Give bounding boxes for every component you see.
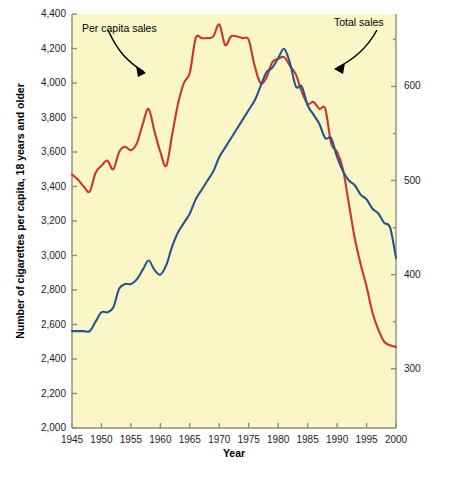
left-tick-label-4400: 4,400 bbox=[10, 8, 66, 19]
series-line-per-capita-sales bbox=[72, 24, 396, 347]
right-axis-ticks bbox=[391, 39, 396, 368]
right-tick-label-300: 300 bbox=[404, 363, 421, 374]
left-tick-label-2000: 2,000 bbox=[10, 422, 66, 433]
annotation-per-capita-sales: Per capita sales bbox=[82, 22, 157, 34]
left-axis-ticks bbox=[72, 14, 77, 428]
left-axis-title: Number of cigarettes per capita, 18 year… bbox=[14, 61, 26, 361]
bottom-tick-label-1980: 1980 bbox=[262, 434, 294, 445]
left-tick-label-4200: 4,200 bbox=[10, 43, 66, 54]
bottom-tick-label-1995: 1995 bbox=[351, 434, 383, 445]
left-tick-label-2200: 2,200 bbox=[10, 388, 66, 399]
x-axis-title: Year bbox=[72, 447, 396, 459]
bottom-tick-label-1985: 1985 bbox=[292, 434, 324, 445]
arrowhead-total-sales bbox=[334, 63, 345, 74]
annotation-arrows bbox=[108, 30, 377, 72]
arrow-total-sales-curve bbox=[337, 30, 377, 68]
bottom-tick-label-1955: 1955 bbox=[115, 434, 147, 445]
right-tick-label-600: 600 bbox=[404, 80, 421, 91]
right-tick-label-400: 400 bbox=[404, 269, 421, 280]
bottom-axis-ticks bbox=[72, 423, 396, 428]
arrowhead-per-capita bbox=[136, 66, 146, 77]
annotation-total-sales: Total sales bbox=[334, 16, 384, 28]
bottom-tick-label-1970: 1970 bbox=[203, 434, 235, 445]
bottom-tick-label-1965: 1965 bbox=[174, 434, 206, 445]
bottom-tick-label-1960: 1960 bbox=[144, 434, 176, 445]
bottom-tick-label-1945: 1945 bbox=[56, 434, 88, 445]
bottom-tick-label-1990: 1990 bbox=[321, 434, 353, 445]
bottom-tick-label-2000: 2000 bbox=[380, 434, 412, 445]
right-tick-label-500: 500 bbox=[404, 175, 421, 186]
bottom-tick-label-1975: 1975 bbox=[233, 434, 265, 445]
chart-figure: 2,0002,2002,4002,6002,8003,0003,2003,400… bbox=[0, 0, 476, 477]
arrow-per-capita-curve bbox=[108, 30, 144, 72]
axis-lines bbox=[72, 14, 396, 428]
bottom-tick-label-1950: 1950 bbox=[85, 434, 117, 445]
chart-canvas bbox=[0, 0, 476, 477]
